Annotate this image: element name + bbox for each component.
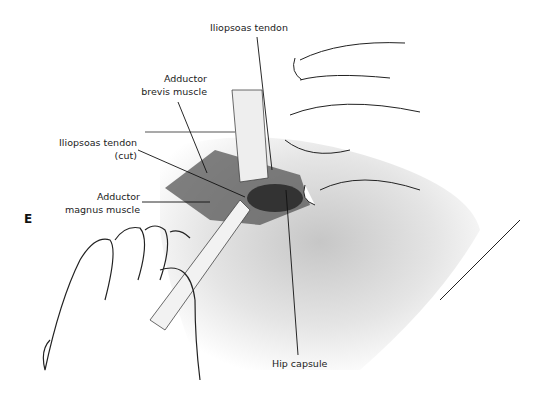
label-iliopsoas-cut-line2: (cut)	[55, 150, 137, 161]
label-hip-capsule: Hip capsule	[272, 358, 327, 369]
label-adductor-magnus-line1: Adductor	[70, 191, 140, 202]
label-adductor-brevis-line2: brevis muscle	[140, 86, 207, 97]
label-iliopsoas-tendon: Iliopsoas tendon	[210, 22, 288, 33]
surgical-drawing	[0, 0, 543, 406]
label-adductor-brevis-line1: Adductor	[145, 73, 207, 84]
panel-letter: E	[24, 212, 32, 226]
label-iliopsoas-cut-line1: Iliopsoas tendon	[55, 137, 137, 148]
anatomical-illustration: Iliopsoas tendon Adductor brevis muscle …	[0, 0, 543, 406]
label-adductor-magnus-line2: magnus muscle	[65, 204, 140, 215]
